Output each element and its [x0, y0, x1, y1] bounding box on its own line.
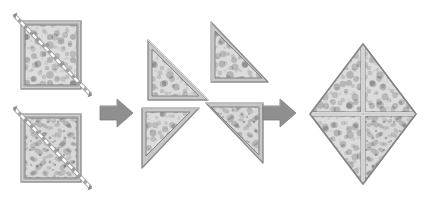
pinwheel-triangle-upper-right [211, 22, 268, 82]
pinwheel-triangle-lower-right [206, 103, 263, 163]
figure-canvas: Square specimen bisection and pinwheel r… [0, 0, 438, 209]
diamond-seam-cross [311, 45, 415, 183]
diagram-svg [0, 0, 438, 209]
process-arrow-1 [100, 99, 133, 127]
process-arrow-2 [263, 99, 296, 127]
pinwheel-triangle-upper-left [148, 40, 208, 100]
assembled-diamond [310, 44, 416, 184]
pinwheel-triangle-lower-left [142, 108, 199, 168]
